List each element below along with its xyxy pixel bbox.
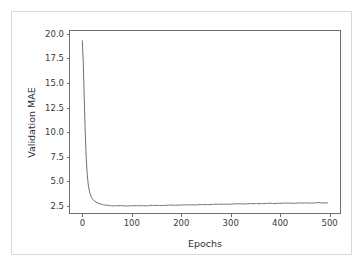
plot-area: 2.55.07.510.012.515.017.520.001002003004…: [69, 30, 341, 214]
y-tick-mark: [67, 108, 71, 109]
y-tick-label: 10.0: [45, 128, 64, 137]
x-tick-label: 400: [272, 219, 288, 228]
y-axis-label-text: Validation MAE: [26, 87, 37, 158]
y-tick-label: 12.5: [45, 103, 64, 112]
y-axis-label: Validation MAE: [25, 30, 37, 214]
y-tick-mark: [67, 181, 71, 182]
y-tick-mark: [67, 157, 71, 158]
validation-mae-line-chart: [70, 31, 340, 213]
y-tick-mark: [67, 83, 71, 84]
x-tick-label: 200: [173, 219, 189, 228]
x-tick-label: 100: [124, 219, 140, 228]
y-tick-mark: [67, 132, 71, 133]
y-tick-label: 17.5: [45, 54, 64, 63]
x-tick-label: 300: [223, 219, 239, 228]
y-tick-mark: [67, 34, 71, 35]
x-tick-mark: [231, 213, 232, 217]
x-tick-mark: [82, 213, 83, 217]
y-tick-label: 20.0: [45, 30, 64, 39]
y-tick-label: 5.0: [50, 177, 64, 186]
figure-frame: Validation MAE 2.55.07.510.012.515.017.5…: [11, 11, 352, 255]
series-line-validation-mae: [82, 41, 327, 206]
y-tick-mark: [67, 206, 71, 207]
x-axis-label: Epochs: [69, 238, 341, 249]
x-tick-label: 0: [80, 219, 85, 228]
x-tick-mark: [330, 213, 331, 217]
y-tick-label: 7.5: [50, 152, 64, 161]
y-tick-label: 2.5: [50, 201, 64, 210]
x-tick-mark: [280, 213, 281, 217]
x-tick-mark: [181, 213, 182, 217]
top-cut-text: · · · — ·· ——: [30, 0, 150, 3]
x-tick-label: 500: [322, 219, 338, 228]
y-tick-label: 15.0: [45, 79, 64, 88]
y-tick-mark: [67, 58, 71, 59]
x-tick-mark: [132, 213, 133, 217]
